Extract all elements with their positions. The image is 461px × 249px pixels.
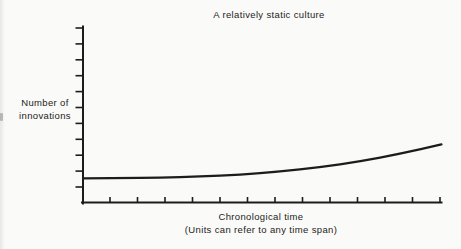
y-axis-label-line1: Number of: [6, 97, 84, 110]
x-axis-label: Chronological time (Units can refer to a…: [111, 211, 411, 236]
x-axis-label-note: (Units can refer to any time span): [111, 224, 411, 237]
x-axis-label-main: Chronological time: [111, 211, 411, 224]
y-axis-label-line2: innovations: [6, 110, 84, 123]
y-axis-label: Number of innovations: [6, 97, 84, 122]
chart-figure: A relatively static culture Number of in…: [0, 0, 461, 249]
chart-title: A relatively static culture: [89, 9, 449, 22]
innovation-curve: [83, 144, 441, 178]
